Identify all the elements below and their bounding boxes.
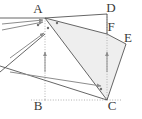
vertex-label-f: F bbox=[107, 19, 114, 34]
vertex-label-e: E bbox=[124, 30, 132, 45]
geometry-svg: A B C D E F bbox=[0, 0, 142, 119]
vertex-label-a: A bbox=[33, 1, 43, 16]
vertex-label-d: D bbox=[106, 0, 115, 15]
marker-near-A-below bbox=[47, 27, 49, 29]
marker-near-A-left bbox=[37, 24, 39, 26]
marker-near-C bbox=[100, 88, 102, 90]
vertex-label-c: C bbox=[108, 98, 117, 113]
marker-near-A-right bbox=[56, 22, 58, 24]
geometry-figure-canvas: A B C D E F bbox=[0, 0, 142, 119]
vertex-label-b: B bbox=[34, 98, 43, 113]
